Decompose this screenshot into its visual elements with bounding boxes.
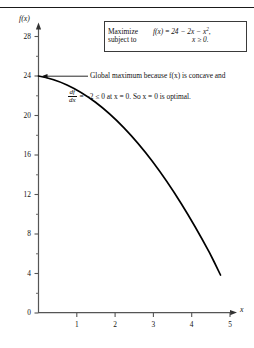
y-tick-label-16: 16 xyxy=(15,150,31,159)
x-tick-label-2: 2 xyxy=(108,320,122,329)
global-maximum-annotation-line1: Global maximum because f(x) is concave a… xyxy=(90,71,225,81)
x-tick-label-1: 1 xyxy=(70,320,84,329)
global-maximum-annotation-line2: df dx = −2 ≤ 0 at x = 0. So x = 0 is opt… xyxy=(68,89,191,105)
derivative-numerator: df xyxy=(68,89,77,97)
problem-statement-box: Maximizef(x) = 24 − 2x − x2, subject tox… xyxy=(104,21,247,52)
derivative-fraction: df dx xyxy=(68,89,77,105)
constraint-label: subject to xyxy=(108,35,153,46)
x-tick-label-4: 4 xyxy=(185,320,199,329)
y-tick-label-20: 20 xyxy=(15,111,31,120)
y-axis-label: f(x) xyxy=(19,14,30,23)
y-tick-label-0: 0 xyxy=(15,308,31,317)
x-tick-label-3: 3 xyxy=(146,320,160,329)
y-tick-label-12: 12 xyxy=(15,190,31,199)
x-tick-label-5: 5 xyxy=(223,320,237,329)
y-axis-arrowhead xyxy=(36,23,41,30)
x-axis-arrowhead xyxy=(230,310,237,315)
x-axis-major-ticks xyxy=(77,313,230,317)
x-axis-label: x xyxy=(240,305,243,314)
plot-canvas xyxy=(0,0,254,348)
y-tick-label-28: 28 xyxy=(15,32,31,41)
y-tick-label-8: 8 xyxy=(15,229,31,238)
derivative-statement: = −2 ≤ 0 at x = 0. So x = 0 is optimal. xyxy=(80,92,191,102)
constraint-expression: x ≥ 0. xyxy=(153,35,209,46)
constraint-row: subject tox ≥ 0. xyxy=(108,35,246,46)
figure-container: Maximizef(x) = 24 − 2x − x2, subject tox… xyxy=(0,0,254,348)
derivative-denominator: dx xyxy=(68,96,77,105)
y-tick-label-4: 4 xyxy=(15,269,31,278)
y-tick-label-24: 24 xyxy=(15,71,31,80)
function-curve xyxy=(39,76,221,275)
objective-row: Maximizef(x) = 24 − 2x − x2, xyxy=(108,24,246,35)
objective-comma: , xyxy=(209,27,211,36)
